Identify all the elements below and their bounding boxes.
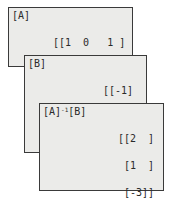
result-matrix-values: [[2 ] [1 ] [-3]] xyxy=(118,116,154,199)
matrix-b-ref: [B] xyxy=(68,106,86,117)
matrix-row: [[-1] xyxy=(103,86,139,95)
matrix-row: [[1 0 1 ] xyxy=(53,38,131,47)
matrix-row: [[2 ] xyxy=(118,134,154,143)
matrix-a-label: [A] xyxy=(12,11,30,20)
matrix-b-label: [B] xyxy=(28,59,46,68)
matrix-a-ref: [A] xyxy=(43,106,61,117)
calculator-screen-result: [A]-1[B] [[2 ] [1 ] [-3]] xyxy=(39,103,164,191)
expression-label: [A]-1[B] xyxy=(43,107,86,116)
matrix-row: [-3]] xyxy=(118,188,154,197)
matrix-row: [1 ] xyxy=(118,161,154,170)
